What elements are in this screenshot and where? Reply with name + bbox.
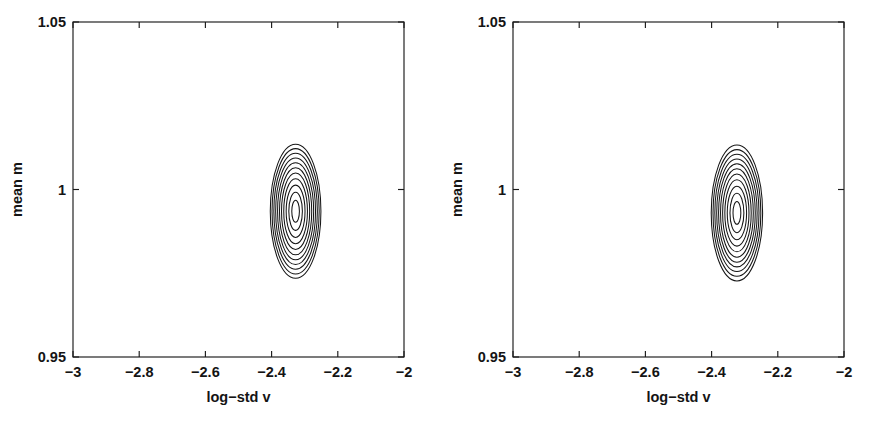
x-tick-label-3: −2.4 [697, 364, 726, 380]
y-tick-label-2: 1.05 [478, 14, 506, 30]
contour-level-1 [733, 202, 741, 225]
y-tick-label-0: 0.95 [38, 349, 66, 365]
x-tick-label-5: −2 [836, 364, 853, 380]
x-tick-label-2: −2.6 [631, 364, 660, 380]
x-tick-label-0: −3 [65, 364, 82, 380]
x-tick-label-4: −2.2 [323, 364, 352, 380]
contour-level-9 [715, 154, 759, 271]
x-axis-title: log−std v [206, 389, 270, 405]
contour-level-2 [289, 192, 303, 230]
x-tick-label-1: −2.8 [565, 364, 594, 380]
y-axis-title: mean m [449, 162, 465, 217]
x-tick-label-4: −2.2 [763, 364, 792, 380]
contour-level-2 [730, 193, 744, 233]
contour-level-4 [284, 179, 308, 244]
contour-level-4 [725, 180, 749, 246]
contour-plot-svg: −3−2.8−2.6−2.4−2.2−20.9511.05log−std vme… [0, 0, 440, 422]
contour-level-9 [274, 153, 318, 269]
x-tick-label-1: −2.8 [125, 364, 154, 380]
x-tick-label-2: −2.6 [191, 364, 220, 380]
contour-level-6 [279, 168, 311, 255]
contour-panel-left: −3−2.8−2.6−2.4−2.2−20.9511.05log−std vme… [0, 0, 440, 422]
x-tick-label-3: −2.4 [257, 364, 286, 380]
contour-panel-right: −3−2.8−2.6−2.4−2.2−20.9511.05log−std vme… [440, 0, 880, 422]
contour-plot-svg: −3−2.8−2.6−2.4−2.2−20.9511.05log−std vme… [440, 0, 880, 422]
contour-level-6 [721, 169, 754, 257]
x-tick-label-5: −2 [396, 364, 413, 380]
x-tick-label-0: −3 [505, 364, 522, 380]
contour-figure: −3−2.8−2.6−2.4−2.2−20.9511.05log−std vme… [0, 0, 880, 422]
contour-level-7 [278, 163, 314, 260]
y-tick-label-1: 1 [58, 182, 66, 198]
x-axis-title: log−std v [646, 389, 710, 405]
y-tick-label-2: 1.05 [38, 14, 66, 30]
plot-frame [513, 22, 844, 357]
y-tick-label-1: 1 [498, 182, 506, 198]
y-axis-title: mean m [9, 162, 25, 217]
contour-level-1 [292, 200, 300, 222]
contour-level-7 [719, 164, 756, 262]
y-tick-label-0: 0.95 [478, 349, 506, 365]
plot-frame [73, 22, 404, 357]
contour-set [711, 145, 762, 281]
contour-set [270, 144, 321, 278]
